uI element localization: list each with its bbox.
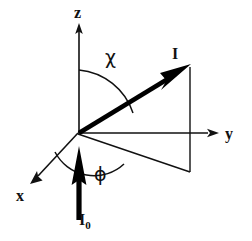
phi-angle-label: ϕ <box>94 165 107 184</box>
vector-I0-label: I0 <box>79 212 91 231</box>
vector-I-label: I <box>172 46 178 62</box>
phi-angle-arc <box>55 152 124 176</box>
y-axis-arrowhead <box>207 129 219 137</box>
vector-I-shaft <box>79 77 171 133</box>
z-axis <box>75 23 83 133</box>
x-axis <box>30 133 78 184</box>
vector-I0-label-subscript: 0 <box>85 219 91 231</box>
projection-lines <box>78 67 190 172</box>
vector-geometry-diagram: z y x χ ϕ I I0 <box>0 0 252 241</box>
y-axis-label: y <box>225 126 233 142</box>
diagram-canvas <box>0 0 252 241</box>
y-axis <box>78 129 219 137</box>
x-axis-label: x <box>16 188 24 204</box>
vector-I-arrowhead <box>160 64 191 90</box>
chi-angle-label: χ <box>105 48 116 67</box>
z-axis-label: z <box>74 5 81 21</box>
incident-beam-I0 <box>72 146 87 220</box>
vector-I0-arrowhead <box>72 146 87 185</box>
